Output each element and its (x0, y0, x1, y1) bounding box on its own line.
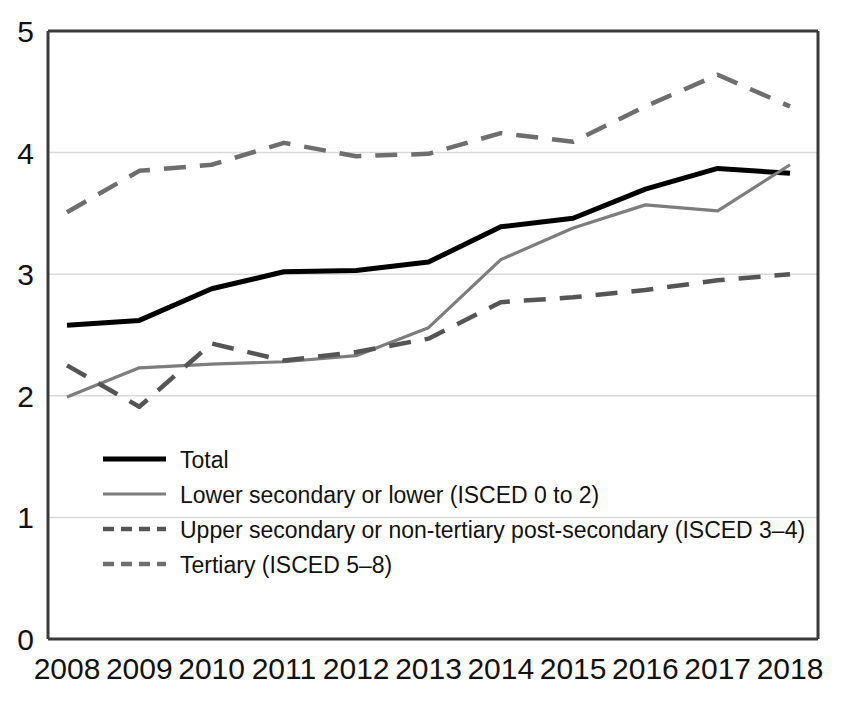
legend-label-1: Lower secondary or lower (ISCED 0 to 2) (180, 482, 599, 508)
x-tick-label: 2016 (612, 652, 679, 685)
x-tick-label: 2009 (106, 652, 173, 685)
x-tick-label: 2017 (684, 652, 751, 685)
chart-container: 012345 200820092010201120122013201420152… (0, 0, 846, 710)
legend-label-3: Tertiary (ISCED 5–8) (180, 552, 392, 578)
x-tick-label: 2008 (34, 652, 101, 685)
x-tick-label: 2015 (540, 652, 607, 685)
line-chart: 012345 200820092010201120122013201420152… (0, 0, 846, 710)
x-tick-label: 2018 (757, 652, 824, 685)
x-tick-label: 2010 (178, 652, 245, 685)
x-tick-label: 2013 (395, 652, 462, 685)
legend-label-2: Upper secondary or non-tertiary post-sec… (180, 517, 805, 543)
x-tick-label: 2011 (252, 652, 317, 685)
y-tick-label: 0 (17, 623, 34, 656)
legend-label-0: Total (180, 447, 229, 473)
y-tick-label: 5 (17, 15, 34, 48)
x-axis-tick-labels: 2008200920102011201220132014201520162017… (34, 652, 824, 685)
y-tick-label: 3 (17, 258, 34, 291)
y-tick-label: 2 (17, 380, 34, 413)
chart-background (0, 0, 846, 710)
x-tick-label: 2014 (467, 652, 534, 685)
y-tick-label: 4 (17, 137, 34, 170)
x-tick-label: 2012 (323, 652, 390, 685)
y-tick-label: 1 (17, 501, 34, 534)
